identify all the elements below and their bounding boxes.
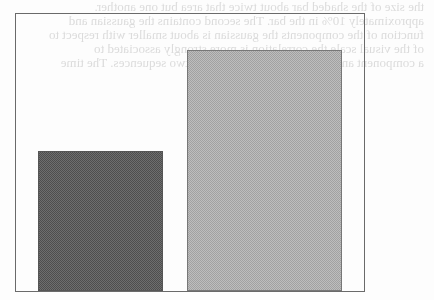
bar-a: [38, 151, 163, 291]
figure-page: the size of the shaded bar about twice t…: [0, 0, 434, 300]
bar-b: [187, 50, 342, 291]
ghost-line: the size of the shaded bar about twice t…: [0, 0, 434, 14]
chart-frame: [15, 13, 365, 292]
